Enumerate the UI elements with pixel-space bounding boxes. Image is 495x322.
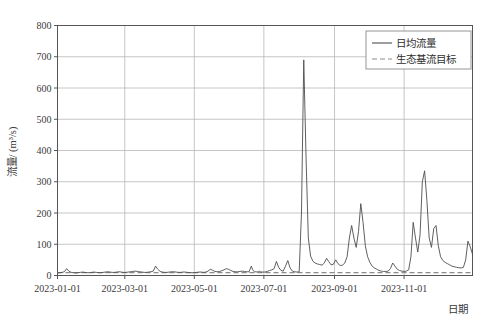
legend-label-series: 日均流量 [396,37,437,49]
legend-label-target: 生态基流目标 [396,53,457,65]
chart-legend: 日均流量 生态基流目标 [366,31,471,69]
x-tick-label: 2023-07-01 [241,283,288,294]
x-tick-label: 2023-11-01 [381,283,427,294]
y-tick-label: 200 [37,208,52,219]
chart-figure: 0100200300400500600700800 2023-01-012023… [0,0,495,322]
y-tick-label: 800 [37,20,52,31]
x-tick-label: 2023-01-01 [34,283,81,294]
y-tick-label: 500 [37,114,52,125]
x-axis-title: 日期 [448,304,468,315]
y-tick-label: 600 [37,83,52,94]
x-tick-label: 2023-09-01 [311,283,358,294]
x-tick-label: 2023-05-01 [171,283,218,294]
y-tick-label: 0 [47,270,52,281]
y-axis-title: 流量/ (m³/s) [6,126,19,177]
y-tick-label: 100 [37,239,52,250]
y-tick-label: 400 [37,145,52,156]
y-tick-label: 300 [37,176,52,187]
flow-line-chart: 0100200300400500600700800 2023-01-012023… [0,0,495,322]
y-tick-label: 700 [37,51,52,62]
x-tick-label: 2023-03-01 [101,283,148,294]
